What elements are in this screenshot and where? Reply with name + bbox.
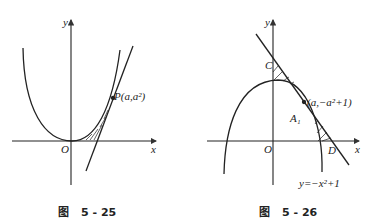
x-axis-label: x <box>151 144 156 155</box>
caption-number: 5 - 25 <box>81 206 116 219</box>
figure-caption: 图5 - 26 <box>259 203 317 219</box>
hatched-region-upper <box>273 66 294 84</box>
tangent-point-label: (a,−a²+1) <box>307 97 352 108</box>
hatched-region-lower <box>315 120 331 141</box>
y-axis-label: y <box>63 17 68 28</box>
origin-label: O <box>264 144 272 155</box>
caption-prefix: 图 <box>58 206 69 219</box>
tangent-point <box>302 100 305 103</box>
y-axis-label: y <box>265 17 270 28</box>
caption-prefix: 图 <box>259 206 270 219</box>
point-p-label: P(a,a²) <box>114 91 145 102</box>
region-a1-label: A₁ <box>290 113 301 124</box>
caption-number: 5 - 26 <box>282 206 317 219</box>
figure-caption: 图5 - 25 <box>58 203 116 219</box>
x-axis-label: x <box>355 144 360 155</box>
figure-5-25 <box>12 20 156 185</box>
curve-equation-label: y=−x²+1 <box>299 178 340 189</box>
point-c-label: C <box>265 60 272 71</box>
origin-label: O <box>61 144 69 155</box>
tangent-line <box>86 46 133 171</box>
point-d-label: D <box>328 145 336 156</box>
